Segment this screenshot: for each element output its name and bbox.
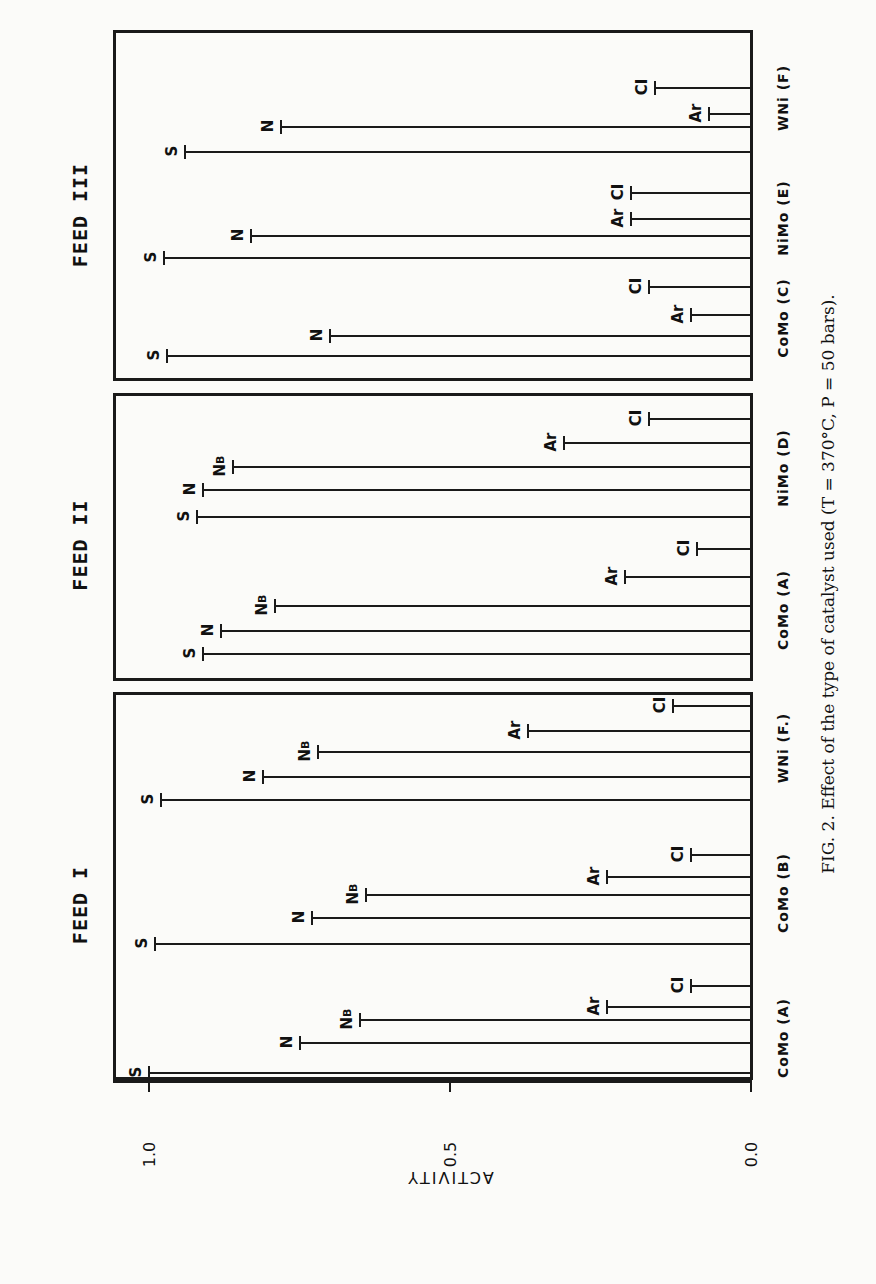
bar-ar xyxy=(709,113,751,115)
bar-label: S xyxy=(145,340,163,370)
bar-s xyxy=(161,799,751,801)
bar-label: CI xyxy=(627,403,645,433)
bar-label: S xyxy=(181,638,199,668)
bar-n xyxy=(263,776,751,778)
bar-n xyxy=(221,630,751,632)
bar-ci xyxy=(649,286,751,288)
tick-label: 0.0 xyxy=(742,1135,761,1175)
bar-cap xyxy=(154,937,156,951)
catalyst-label: CoMo (B) xyxy=(775,823,791,963)
bar-n xyxy=(251,235,751,237)
bar-nb xyxy=(318,751,751,753)
bar-label: S xyxy=(163,136,181,166)
tick-label: 1.0 xyxy=(140,1135,159,1175)
bar-cap xyxy=(262,770,264,784)
bar-ar xyxy=(528,730,751,732)
bar-cap xyxy=(690,979,692,993)
bar-s xyxy=(197,516,751,518)
bar-cap xyxy=(359,1013,361,1027)
bar-cap xyxy=(202,647,204,661)
bar-nb xyxy=(366,894,751,896)
bar-cap xyxy=(606,1000,608,1014)
bar-s xyxy=(185,151,751,153)
bar-ci xyxy=(649,418,751,420)
bar-label: NB xyxy=(211,451,229,481)
bar-ar xyxy=(691,314,751,316)
bar-label: S xyxy=(142,242,160,272)
bar-cap xyxy=(250,229,252,243)
bar-ar xyxy=(564,442,751,444)
bar-label: NB xyxy=(344,879,362,909)
bar-s xyxy=(155,943,751,945)
catalyst-label: WNi (F) xyxy=(775,28,791,168)
bar-nb xyxy=(233,466,751,468)
bar-label: N xyxy=(181,474,199,504)
bar-label: Ar xyxy=(585,861,603,891)
catalyst-label: CoMo (A) xyxy=(775,968,791,1108)
bar-label: Ar xyxy=(542,427,560,457)
bar-nb xyxy=(275,605,751,607)
bar-label: S xyxy=(139,784,157,814)
bar-s xyxy=(167,355,751,357)
bar-n xyxy=(281,126,751,128)
bar-label: S xyxy=(175,501,193,531)
panel-feed-iii xyxy=(113,30,753,381)
bar-label: S xyxy=(133,928,151,958)
bar-label: NB xyxy=(338,1004,356,1034)
bar-cap xyxy=(624,570,626,584)
bar-cap xyxy=(365,888,367,902)
bar-cap xyxy=(527,724,529,738)
bar-ar xyxy=(607,1006,751,1008)
bar-s xyxy=(149,1072,751,1074)
bar-cap xyxy=(606,870,608,884)
bar-label: Ar xyxy=(585,991,603,1021)
bar-cap xyxy=(654,81,656,95)
bar-label: Ar xyxy=(603,561,621,591)
bar-cap xyxy=(166,349,168,363)
bar-label: Ar xyxy=(687,98,705,128)
bar-label: Ar xyxy=(506,715,524,745)
bar-label: CI xyxy=(627,271,645,301)
feed-label: FEED II xyxy=(68,485,92,605)
bar-ar xyxy=(607,876,751,878)
x-axis-line xyxy=(113,1080,751,1083)
bar-n xyxy=(312,917,751,919)
bar-s xyxy=(203,653,751,655)
bar-cap xyxy=(184,145,186,159)
bar-cap xyxy=(148,1066,150,1080)
bar-cap xyxy=(648,280,650,294)
bar-cap xyxy=(317,745,319,759)
catalyst-label: NiMo (D) xyxy=(775,398,791,538)
bar-label: NB xyxy=(296,736,314,766)
bar-label: N xyxy=(278,1027,296,1057)
bar-cap xyxy=(220,624,222,638)
bar-s xyxy=(164,257,751,259)
bar-label: Ar xyxy=(609,203,627,233)
bar-ar xyxy=(625,576,751,578)
bar-label: CI xyxy=(669,970,687,1000)
bar-label: CI xyxy=(669,839,687,869)
bar-ar xyxy=(631,218,751,220)
bar-cap xyxy=(672,699,674,713)
bar-label: N xyxy=(229,220,247,250)
bar-n xyxy=(330,335,751,337)
bar-ci xyxy=(673,705,751,707)
bar-cap xyxy=(280,120,282,134)
feed-label: FEED III xyxy=(68,155,92,275)
bar-label: CI xyxy=(675,533,693,563)
bar-n xyxy=(300,1042,752,1044)
bar-cap xyxy=(196,510,198,524)
bar-ci xyxy=(691,985,751,987)
bar-n xyxy=(203,489,751,491)
bar-cap xyxy=(696,542,698,556)
bar-cap xyxy=(690,308,692,322)
bar-label: N xyxy=(259,111,277,141)
bar-ci xyxy=(655,87,751,89)
bar-label: N xyxy=(241,761,259,791)
bar-label: N xyxy=(308,320,326,350)
bar-cap xyxy=(630,186,632,200)
bar-label: CI xyxy=(633,72,651,102)
bar-cap xyxy=(202,483,204,497)
bar-ci xyxy=(697,548,751,550)
bar-cap xyxy=(563,436,565,450)
